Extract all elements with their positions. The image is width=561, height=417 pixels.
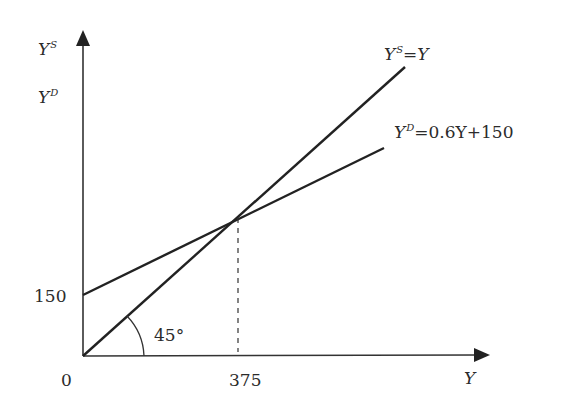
origin-label: 0 xyxy=(61,372,72,389)
x-axis xyxy=(83,355,476,356)
y-axis-label-supply: YS xyxy=(38,40,57,58)
x-axis-label: Y xyxy=(464,370,475,387)
y-axis-label-demand: YD xyxy=(38,88,58,106)
equilibrium-x-label: 375 xyxy=(229,372,261,389)
x-axis-arrow-icon xyxy=(474,348,490,362)
demand-line-label: YD=0.6Y+150 xyxy=(394,123,513,141)
y-intercept-label: 150 xyxy=(34,288,66,305)
y-axis-arrow-icon xyxy=(76,30,90,46)
angle-label: 45° xyxy=(154,327,184,344)
supply-line xyxy=(83,67,405,356)
supply-line-label: YS=Y xyxy=(384,45,429,63)
diagram-canvas xyxy=(0,0,561,417)
demand-line xyxy=(83,148,384,295)
angle-arc xyxy=(127,316,144,356)
